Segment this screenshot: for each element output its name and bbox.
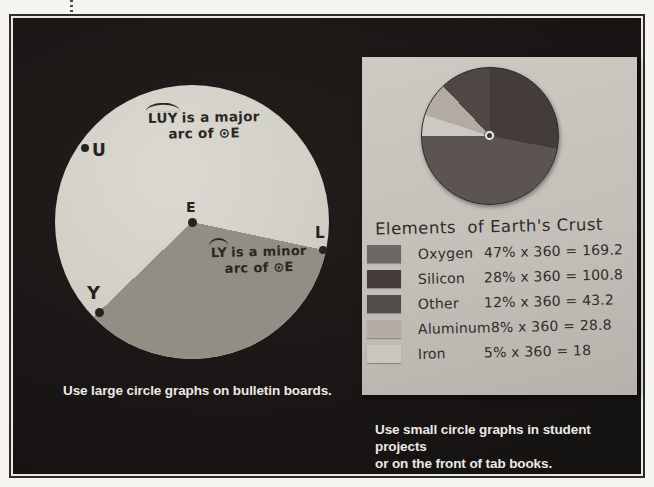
element-formula: 8% x 360 = 28.8 — [491, 317, 612, 336]
point-dot-y — [95, 308, 104, 317]
right-caption-line2: or on the front of tab books. — [375, 455, 645, 472]
paper-card: Elements of Earth's Crust Oxygen47% x 36… — [362, 57, 637, 395]
minor-arc-line2: arc of ⊙E — [198, 258, 320, 277]
right-caption: Use small circle graphs in student proje… — [375, 421, 645, 472]
major-arc-line1-rest: is a major — [182, 108, 260, 125]
legend-row-iron: Iron5% x 360 = 18 — [362, 343, 637, 368]
element-name: Aluminum — [418, 319, 491, 337]
left-caption: Use large circle graphs on bulletin boar… — [63, 382, 353, 399]
page-root: { "left_panel": { "points": { "u": "U", … — [0, 0, 654, 487]
point-label-u: U — [92, 142, 106, 159]
legend-row-aluminum: Aluminum8% x 360 = 28.8 — [362, 318, 637, 343]
brad-fastener — [484, 130, 495, 141]
element-formula: 28% x 360 = 100.8 — [484, 266, 623, 285]
element-name: Silicon — [418, 270, 484, 287]
point-label-y: Y — [87, 284, 100, 302]
minor-arc-line1: LYis a minor — [198, 242, 320, 261]
point-dot-u — [81, 144, 89, 152]
legend-row-oxygen: Oxygen47% x 360 = 169.2 — [362, 243, 637, 268]
point-dot-e — [188, 218, 197, 227]
point-dot-l — [319, 246, 327, 254]
element-formula: 5% x 360 = 18 — [484, 342, 592, 360]
point-label-e: E — [186, 200, 196, 214]
color-swatch — [367, 320, 401, 338]
color-swatch — [367, 270, 401, 288]
minor-arc-line1-rest: is a minor — [231, 243, 307, 260]
color-swatch — [367, 245, 401, 263]
element-name: Other — [418, 295, 484, 312]
minor-arc-annotation: LYis a minor arc of ⊙E — [198, 242, 321, 277]
legend-row-other: Other12% x 360 = 43.2 — [362, 293, 637, 318]
major-arc-annotation: LUYis a major arc of ⊙E — [128, 108, 281, 143]
legend-row-silicon: Silicon28% x 360 = 100.8 — [362, 268, 637, 293]
legend: Oxygen47% x 360 = 169.2 Silicon28% x 360… — [362, 243, 637, 368]
major-arc-line2: arc of ⊙E — [128, 124, 280, 143]
element-name: Oxygen — [418, 245, 484, 262]
point-label-l: L — [315, 226, 325, 241]
color-swatch — [367, 295, 401, 313]
photo-frame: U E L Y LUYis a major arc of ⊙E LYis a m… — [9, 14, 645, 478]
element-name: Iron — [418, 345, 484, 362]
color-swatch — [367, 345, 401, 363]
crop-mark-dotted-line — [70, 0, 73, 14]
chart-title: Elements of Earth's Crust — [375, 214, 625, 238]
major-arc-line1: LUYis a major — [128, 108, 280, 127]
arc-overline-label: LY — [211, 245, 228, 261]
element-formula: 47% x 360 = 169.2 — [484, 241, 623, 260]
arc-overline-label: LUY — [148, 109, 178, 126]
bulletin-board: U E L Y LUYis a major arc of ⊙E LYis a m… — [13, 18, 641, 474]
right-caption-line1: Use small circle graphs in student proje… — [375, 421, 645, 455]
element-formula: 12% x 360 = 43.2 — [484, 292, 614, 311]
